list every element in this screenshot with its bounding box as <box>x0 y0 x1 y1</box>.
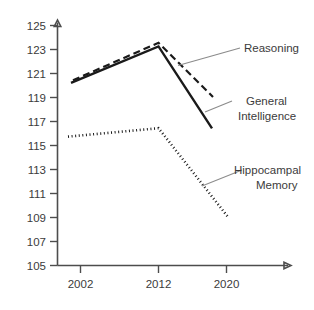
y-tick-label-113: 113 <box>28 164 46 176</box>
y-tick-label-111: 111 <box>29 188 46 200</box>
series-label-general: General <box>246 95 287 107</box>
x-tick-label-2020: 2020 <box>214 278 240 290</box>
y-tick-label-123: 123 <box>27 44 46 56</box>
y-tick-label-121: 121 <box>27 68 46 80</box>
series-label-hippocampal: Hippocampal <box>234 164 301 176</box>
series-label-intelligence: Intelligence <box>238 110 296 122</box>
series-label-reasoning: Reasoning <box>244 42 299 54</box>
y-tick-label-107: 107 <box>27 236 46 248</box>
y-tick-label-109: 109 <box>27 212 46 224</box>
y-tick-marks <box>50 26 58 266</box>
series-line-reasoning <box>73 43 213 97</box>
chart-canvas: 125 123 121 119 117 115 113 111 109 107 … <box>0 0 314 310</box>
series-label-memory: Memory <box>256 179 298 191</box>
x-tick-label-2012: 2012 <box>146 278 172 290</box>
y-tick-label-117: 117 <box>28 116 46 128</box>
leader-line-reasoning <box>178 48 240 66</box>
y-tick-label-125: 125 <box>27 20 46 32</box>
y-tick-label-105: 105 <box>27 260 46 272</box>
series-line-hippocampal-memory <box>68 128 228 217</box>
x-tick-label-2002: 2002 <box>68 278 94 290</box>
line-chart: 125 123 121 119 117 115 113 111 109 107 … <box>0 0 314 310</box>
y-tick-labels: 125 123 121 119 117 115 113 111 109 107 … <box>27 20 46 272</box>
y-tick-label-119: 119 <box>28 92 46 104</box>
x-tick-labels: 2002 2012 2020 <box>68 278 240 290</box>
leader-line-general-intelligence <box>205 101 232 112</box>
y-tick-label-115: 115 <box>28 140 46 152</box>
x-tick-marks <box>81 266 227 274</box>
series-line-general-intelligence <box>71 46 212 128</box>
